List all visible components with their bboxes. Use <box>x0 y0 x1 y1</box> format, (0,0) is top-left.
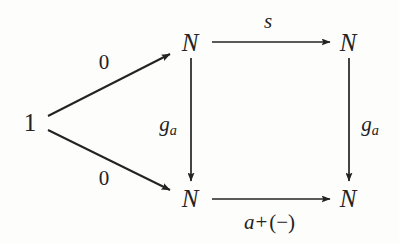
edge-label-addition: a+(−) <box>244 212 296 233</box>
edge-label-zero-upper: 0 <box>99 52 110 73</box>
node-bottom-left-n: N <box>182 186 199 211</box>
node-top-right-n: N <box>340 30 357 55</box>
edge-label-successor: s <box>264 11 272 32</box>
addition-hole: (−) <box>268 210 296 234</box>
edge-label-zero-lower: 0 <box>99 168 110 189</box>
node-top-left-n: N <box>182 30 199 55</box>
node-source-one: 1 <box>24 110 37 135</box>
node-bottom-right-n: N <box>340 186 357 211</box>
commutative-diagram: 1 N N N N 0 0 s ga ga a+(−) <box>0 0 399 244</box>
edge-label-g-a-left: ga <box>159 114 177 137</box>
addition-operator: + <box>254 210 268 234</box>
addition-operand: a <box>244 210 255 234</box>
g-a-left-base: g <box>159 112 170 136</box>
edge-label-g-a-right: ga <box>361 114 379 137</box>
g-a-right-subscript: a <box>372 122 379 138</box>
g-a-left-subscript: a <box>170 122 177 138</box>
g-a-right-base: g <box>361 112 372 136</box>
